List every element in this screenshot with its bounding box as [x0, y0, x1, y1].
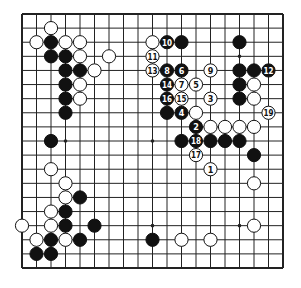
move-number-label: 18 [191, 137, 201, 146]
black-stone [175, 134, 188, 147]
move-number-label: 10 [162, 39, 172, 48]
black-stone [233, 78, 246, 91]
black-stone [146, 233, 159, 246]
move-number-label: 14 [162, 81, 172, 90]
black-stone [218, 134, 231, 147]
star-point [238, 224, 242, 228]
black-stone [59, 92, 72, 105]
black-stone [30, 247, 43, 260]
move-number-label: 15 [177, 95, 187, 104]
move-number-label: 9 [208, 66, 214, 76]
move-number-label: 12 [264, 67, 274, 76]
black-stone [59, 78, 72, 91]
black-stone [59, 50, 72, 63]
black-stone [73, 191, 86, 204]
white-stone [247, 219, 260, 232]
black-stone [59, 106, 72, 119]
go-board-svg: 12345678910111213141516171819 [0, 0, 301, 288]
move-number-label: 11 [148, 53, 158, 62]
black-stone [233, 134, 246, 147]
move-number-label: 3 [208, 94, 214, 104]
black-stone [247, 64, 260, 77]
white-stone [44, 22, 57, 35]
black-stone [233, 92, 246, 105]
move-number-label: 17 [191, 151, 201, 160]
white-stone [204, 120, 217, 133]
black-stone [175, 36, 188, 49]
white-stone [44, 163, 57, 176]
black-stone [88, 219, 101, 232]
black-stone [233, 36, 246, 49]
white-stone [30, 233, 43, 246]
white-stone [175, 233, 188, 246]
white-stone [44, 205, 57, 218]
black-stone [73, 64, 86, 77]
white-stone [189, 106, 202, 119]
white-stone [233, 120, 246, 133]
black-stone [73, 233, 86, 246]
white-stone [73, 78, 86, 91]
white-stone [247, 177, 260, 190]
white-stone [88, 64, 101, 77]
white-stone [73, 50, 86, 63]
black-stone [44, 36, 57, 49]
move-number-label: 7 [179, 80, 185, 90]
white-stone [247, 92, 260, 105]
white-stone [247, 78, 260, 91]
move-number-label: 6 [179, 66, 185, 76]
white-stone [102, 50, 115, 63]
move-number-label: 4 [179, 108, 185, 118]
white-stone [59, 233, 72, 246]
move-number-label: 5 [193, 80, 199, 90]
white-stone [44, 219, 57, 232]
white-stone [218, 120, 231, 133]
white-stone [59, 177, 72, 190]
white-stone [30, 36, 43, 49]
black-stone [247, 149, 260, 162]
black-stone [59, 64, 72, 77]
black-stone [233, 64, 246, 77]
white-stone [73, 92, 86, 105]
go-board-diagram: 12345678910111213141516171819 [0, 0, 301, 288]
white-stone [59, 191, 72, 204]
move-number-label: 16 [162, 95, 172, 104]
white-stone [204, 233, 217, 246]
white-stone [73, 36, 86, 49]
black-stone [204, 134, 217, 147]
move-number-label: 19 [264, 109, 274, 118]
black-stone [59, 205, 72, 218]
black-stone [44, 247, 57, 260]
move-number-label: 1 [208, 165, 214, 175]
black-stone [59, 219, 72, 232]
black-stone [160, 106, 173, 119]
white-stone [146, 36, 159, 49]
star-point [64, 139, 68, 143]
white-stone [247, 120, 260, 133]
white-stone [15, 219, 28, 232]
black-stone [44, 134, 57, 147]
move-number-label: 13 [148, 67, 158, 76]
white-stone [59, 36, 72, 49]
star-point [238, 55, 242, 59]
star-point [151, 224, 155, 228]
black-stone [44, 233, 57, 246]
move-number-label: 2 [193, 122, 199, 132]
move-number-label: 8 [164, 66, 170, 76]
black-stone [44, 50, 57, 63]
star-point [151, 139, 155, 143]
